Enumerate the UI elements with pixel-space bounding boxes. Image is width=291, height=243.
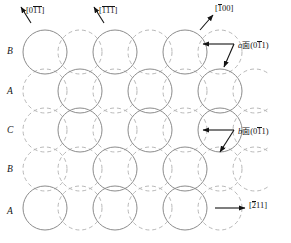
dashed-sphere xyxy=(128,30,172,74)
solid-sphere xyxy=(163,147,207,191)
layer-label-a-4: A xyxy=(7,207,13,217)
layer-label-b-3: B xyxy=(7,165,13,175)
leader-lines-group xyxy=(21,7,245,208)
layer-label-b-0: B xyxy=(7,47,13,57)
solid-sphere xyxy=(58,108,102,152)
plane-a-label: a面(011) xyxy=(238,41,269,50)
crystal-stacking-figure: BACBA [011][111][100][211] a面(011)b面(011… xyxy=(0,0,291,243)
solid-sphere xyxy=(93,30,137,74)
solid-sphere xyxy=(198,69,242,113)
dashed-sphere xyxy=(163,69,207,113)
leader-plane-a-lower xyxy=(224,44,234,67)
solid-sphere xyxy=(23,30,67,74)
dashed-sphere xyxy=(128,186,172,230)
dashed-sphere xyxy=(233,147,277,191)
dashed-sphere xyxy=(23,108,67,152)
solid-sphere xyxy=(128,108,172,152)
dashed-sphere xyxy=(233,69,277,113)
solid-sphere xyxy=(93,186,137,230)
direction-1bar-0-0: [100] xyxy=(215,4,233,13)
plane-b-label: b面(011) xyxy=(238,127,269,136)
lattice-canvas xyxy=(0,0,291,243)
layer-label-c-2: C xyxy=(7,126,13,136)
solid-sphere xyxy=(128,69,172,113)
solid-sphere xyxy=(163,186,207,230)
solid-sphere xyxy=(23,186,67,230)
direction-2bar-1-1: [211] xyxy=(249,201,267,210)
solid-sphere xyxy=(58,69,102,113)
layer-label-a-1: A xyxy=(7,87,13,97)
dashed-sphere xyxy=(198,147,242,191)
dashed-sphere xyxy=(93,69,137,113)
dashed-sphere xyxy=(93,108,137,152)
direction-1bar-1bar-1bar: [111] xyxy=(99,6,117,15)
direction-0-1bar-1bar: [011] xyxy=(26,6,44,15)
dashed-sphere xyxy=(198,30,242,74)
arrow-direction-1bar-0-0 xyxy=(200,15,213,30)
dashed-sphere xyxy=(163,108,207,152)
dashed-sphere xyxy=(23,69,67,113)
dashed-sphere xyxy=(58,147,102,191)
solid-sphere xyxy=(93,147,137,191)
dashed-sphere xyxy=(58,186,102,230)
dashed-sphere xyxy=(23,147,67,191)
dashed-sphere xyxy=(58,30,102,74)
solid-sphere xyxy=(163,30,207,74)
dashed-sphere xyxy=(128,147,172,191)
